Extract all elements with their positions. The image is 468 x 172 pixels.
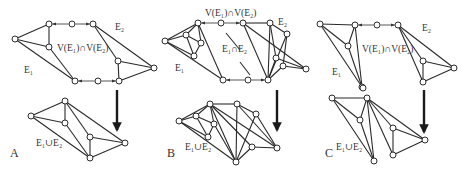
- vertex-node: [46, 21, 52, 27]
- edge: [65, 123, 90, 158]
- vertex-node: [72, 78, 78, 84]
- union-label: E₁∪E₂: [36, 138, 62, 148]
- vertex-node: [233, 159, 239, 165]
- hypergraph-union-figure: E₁E₂V(E₁)∩V(E₂)E₁∪E₂A E₁E₂V(E₁)∩V(E₂)E₁∩…: [0, 0, 468, 172]
- edge: [90, 143, 125, 158]
- edge: [332, 98, 360, 120]
- vertex-node: [183, 32, 189, 38]
- vertex-node: [195, 20, 201, 26]
- vertex-node: [267, 20, 273, 26]
- vertex-node: [371, 158, 377, 164]
- vertex-node: [205, 134, 211, 140]
- panel-label: C: [325, 146, 333, 160]
- vertex-node: [198, 40, 204, 46]
- vertex-node: [115, 58, 121, 64]
- union-label: E₁∪E₂: [185, 142, 211, 152]
- edge: [367, 98, 393, 128]
- vertex-node: [422, 137, 428, 143]
- vertex-node: [273, 55, 279, 61]
- edge-intersection-label: E₁∩E₂: [222, 44, 247, 54]
- vertex-node: [303, 66, 309, 72]
- vertex-node: [151, 65, 157, 71]
- vertex-node: [87, 155, 93, 161]
- vertex-node: [253, 111, 259, 117]
- intersection-label: V(E₁)∩V(E₂): [362, 44, 413, 55]
- edge: [31, 101, 65, 116]
- vertex-node: [62, 120, 68, 126]
- edge: [270, 23, 276, 58]
- vertex-node: [265, 77, 271, 83]
- panel-label: A: [10, 146, 19, 160]
- vertex-node: [234, 101, 240, 107]
- vertex-node: [69, 21, 75, 27]
- shared-edge-pointer: [240, 62, 250, 75]
- vertex-node: [352, 22, 358, 28]
- intersection-label: V(E₁)∩V(E₂): [57, 43, 108, 54]
- vertex-node: [116, 78, 122, 84]
- edge: [236, 114, 256, 162]
- vertex-node: [395, 22, 401, 28]
- vertex-node: [390, 125, 396, 131]
- bottom-graph: E₁∪E₂: [329, 85, 428, 164]
- vertex-node: [62, 98, 68, 104]
- edge: [256, 114, 277, 148]
- e2-label: E₂: [115, 22, 124, 32]
- vertex-node: [451, 65, 457, 71]
- vertex-node: [218, 20, 224, 26]
- bottom-graph: E₁∪E₂: [176, 101, 280, 165]
- vertex-node: [364, 95, 370, 101]
- e1-label: E₁: [175, 63, 184, 73]
- edge: [423, 68, 454, 82]
- vertex-node: [420, 58, 426, 64]
- vertex-node: [284, 31, 290, 37]
- e1-label: E₁: [332, 67, 341, 77]
- edge: [236, 104, 237, 162]
- vertex-node: [357, 117, 363, 123]
- edge: [214, 124, 236, 162]
- edge: [393, 128, 425, 140]
- edge: [65, 101, 90, 137]
- e2-label: E₂: [422, 23, 431, 33]
- vertex-node: [329, 95, 335, 101]
- bottom-graph: E₁∪E₂: [28, 98, 128, 161]
- vertex-node: [191, 53, 197, 59]
- vertex-node: [176, 118, 182, 124]
- edge: [15, 24, 49, 39]
- intersection-label: V(E₁)∩V(E₂): [205, 8, 256, 19]
- panel-c: E₁E₂V(E₁)∩V(E₂)E₁∪E₂C: [317, 21, 457, 164]
- e2-label: E₂: [278, 17, 287, 27]
- edge: [90, 137, 125, 143]
- panel-a: E₁E₂V(E₁)∩V(E₂)E₁∪E₂A: [10, 21, 157, 161]
- vertex-node: [207, 101, 213, 107]
- vertex-node: [317, 21, 323, 27]
- edge: [268, 23, 270, 80]
- vertex-node: [240, 20, 246, 26]
- top-graph: E₁E₂V(E₁)∩V(E₂): [317, 21, 457, 90]
- vertex-node: [360, 85, 366, 91]
- vertex-node: [249, 144, 255, 150]
- vertex-node: [220, 77, 226, 83]
- edge: [398, 25, 423, 61]
- vertex-node: [274, 145, 280, 151]
- edge: [367, 98, 393, 155]
- vertex-node: [374, 22, 380, 28]
- e1-label: E₁: [24, 65, 33, 75]
- panel-b: E₁E₂V(E₁)∩V(E₂)E₁∩E₂E₁∪E₂B: [162, 8, 309, 165]
- vertex-node: [46, 44, 52, 50]
- top-graph: E₁E₂V(E₁)∩V(E₂): [12, 21, 157, 84]
- vertex-node: [12, 36, 18, 42]
- vertex-node: [90, 21, 96, 27]
- vertex-node: [95, 78, 101, 84]
- edge: [367, 98, 425, 140]
- edge: [320, 24, 355, 25]
- panel-label: B: [167, 146, 175, 160]
- vertex-node: [345, 43, 351, 49]
- edge: [393, 140, 425, 155]
- vertex-node: [87, 134, 93, 140]
- vertex-node: [162, 38, 168, 44]
- top-graph: E₁E₂V(E₁)∩V(E₂)E₁∩E₂: [162, 8, 309, 83]
- vertex-node: [193, 113, 199, 119]
- vertex-node: [280, 63, 286, 69]
- union-label: E₁∪E₂: [336, 142, 362, 152]
- vertex-node: [28, 113, 34, 119]
